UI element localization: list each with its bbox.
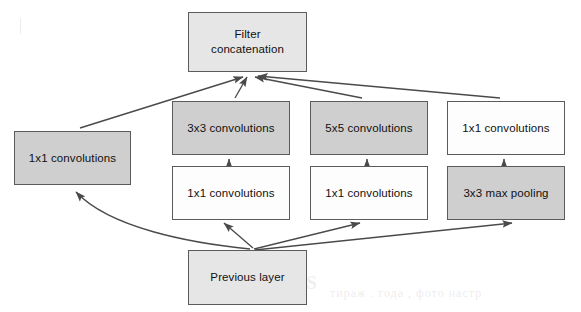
edge-previous-to-maxpool — [255, 223, 512, 250]
node-label: 5x5 convolutions — [325, 121, 412, 136]
node-filter-concatenation[interactable]: Filter concatenation — [188, 12, 307, 72]
node-maxpool-3x3[interactable]: 3x3 max pooling — [447, 166, 565, 220]
node-label: Filter concatenation — [211, 27, 284, 56]
node-conv-3x3[interactable]: 3x3 convolutions — [172, 101, 290, 155]
node-conv-1x1-direct[interactable]: 1x1 convolutions — [14, 131, 131, 185]
edge-pool-1x1-to-concat — [258, 76, 500, 98]
bleedthrough-text-2: тираж . года , фото настр — [330, 286, 482, 301]
node-conv-1x1-pool-branch[interactable]: 1x1 convolutions — [447, 101, 565, 155]
edge-conv-3x3-to-concat — [235, 77, 247, 98]
node-conv-5x5[interactable]: 5x5 convolutions — [310, 101, 428, 155]
node-label: 1x1 convolutions — [187, 186, 274, 201]
edge-previous-to-reduce-3x3 — [224, 223, 253, 248]
scan-seam-line — [20, 18, 21, 34]
node-label: Previous layer — [210, 270, 284, 285]
inception-module-figure: CSZOIS тираж . года , фото настр — [0, 0, 581, 312]
edge-previous-to-reduce-5x5 — [254, 223, 360, 249]
node-label: 1x1 convolutions — [29, 151, 116, 166]
node-conv-1x1-reduce-3x3[interactable]: 1x1 convolutions — [172, 166, 290, 220]
node-previous-layer[interactable]: Previous layer — [188, 250, 307, 305]
node-label: 1x1 convolutions — [325, 186, 412, 201]
node-label: 1x1 convolutions — [462, 121, 549, 136]
edge-conv-5x5-to-concat — [255, 77, 362, 98]
node-conv-1x1-reduce-5x5[interactable]: 1x1 convolutions — [310, 166, 428, 220]
node-label: 3x3 convolutions — [187, 121, 274, 136]
node-label: 3x3 max pooling — [463, 186, 548, 201]
